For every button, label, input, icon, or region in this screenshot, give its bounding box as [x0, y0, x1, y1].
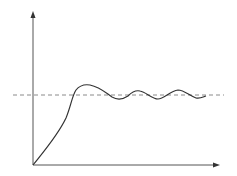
step-response-diagram	[0, 0, 237, 176]
y-axis-arrow-icon	[31, 11, 36, 18]
response-curve	[33, 85, 206, 165]
x-axis-arrow-icon	[213, 163, 220, 168]
